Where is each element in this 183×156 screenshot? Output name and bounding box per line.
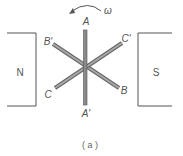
arrowhead-icon [69, 8, 75, 14]
rotation-arrow: ω [69, 5, 112, 16]
south-pole-magnet: S [138, 33, 172, 106]
coil-a-start-label: A [82, 16, 90, 27]
coil-a [84, 30, 88, 105]
north-pole-label: N [16, 67, 23, 78]
three-phase-rotor-diagram: N S ω A A' B' B C' C ( a ) [0, 0, 183, 156]
coil-c-end-label: C [44, 89, 52, 100]
south-pole-label: S [153, 67, 160, 78]
north-pole-magnet: N [7, 33, 36, 106]
figure-caption: ( a ) [82, 140, 98, 150]
omega-label: ω [104, 5, 112, 16]
coil-c-start-label: C' [121, 33, 131, 44]
coil-a-end-label: A' [81, 108, 92, 119]
curved-arrow-icon [72, 6, 101, 12]
coil-b-start-label: B' [44, 36, 54, 47]
coil-b-end-label: B [121, 85, 128, 96]
